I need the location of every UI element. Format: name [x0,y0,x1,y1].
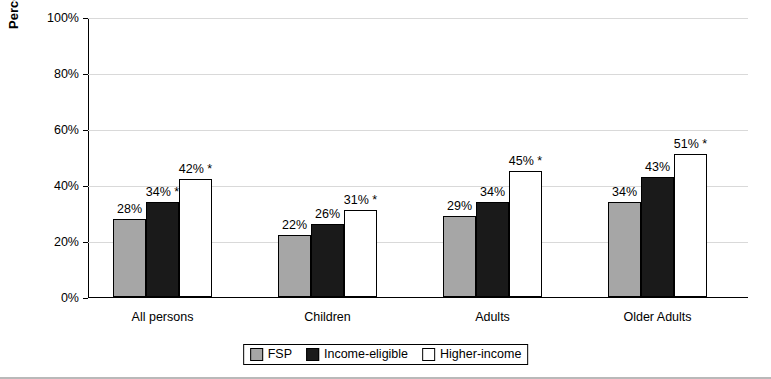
y-axis-tick-label: 60% [54,123,79,137]
bar-value-label: 34% * [146,185,179,199]
y-axis-tick-label: 40% [54,179,79,193]
bar-income-eligible [641,177,674,297]
x-axis-category-label: Older Adults [623,310,691,324]
bar-income-eligible [311,224,344,297]
bar-value-label: 31% * [344,193,377,207]
bar-income-eligible [476,202,509,297]
bar-higher-income [509,171,542,297]
x-axis-category-label: Adults [475,310,510,324]
bar-value-label: 42% * [179,162,212,176]
bar-fsp [278,235,311,297]
x-axis-category-label: Children [304,310,351,324]
bar-higher-income [344,210,377,297]
legend-swatch-higher-income [422,348,435,361]
x-axis-line [88,297,748,298]
y-axis-title: Percent of persons [6,0,21,60]
bar-value-label: 51% * [674,137,707,151]
bar-fsp [443,216,476,297]
y-axis-tick [83,130,88,131]
bar-group: 22%26%31% * [278,19,377,297]
bar-group: 28%34% *42% * [113,19,212,297]
bar-group: 34%43%51% * [608,19,707,297]
bar-fsp [113,219,146,297]
legend-swatch-income-eligible [306,348,319,361]
legend-label-fsp: FSP [268,347,292,361]
legend-label-income-eligible: Income-eligible [324,347,408,361]
plot-area: 0%20%40%60%80%100% 28%34% *42% *All pers… [88,18,748,298]
legend-item-fsp: FSP [250,347,292,361]
y-axis-line [88,18,89,298]
chart-legend: FSP Income-eligible Higher-income [243,344,529,365]
bar-chart: Percent of persons 0%20%40%60%80%100% 28… [0,0,771,379]
bar-value-label: 29% [447,199,472,213]
legend-item-higher-income: Higher-income [422,347,521,361]
bar-value-label: 28% [117,202,142,216]
bar-value-label: 34% [612,185,637,199]
y-axis-tick-label: 0% [61,291,79,305]
bar-value-label: 26% [315,207,340,221]
bar-fsp [608,202,641,297]
y-axis-tick [83,18,88,19]
y-axis-tick [83,242,88,243]
bar-income-eligible [146,202,179,297]
legend-swatch-fsp [250,348,263,361]
y-axis-tick-label: 80% [54,67,79,81]
y-axis-tick [83,298,88,299]
x-axis-category-label: All persons [132,310,194,324]
y-axis-tick-label: 100% [47,11,79,25]
legend-label-higher-income: Higher-income [440,347,521,361]
bar-higher-income [179,179,212,297]
bar-group: 29%34%45% * [443,19,542,297]
y-axis-tick-label: 20% [54,235,79,249]
y-axis-tick [83,74,88,75]
bar-value-label: 45% * [509,154,542,168]
legend-item-income-eligible: Income-eligible [306,347,408,361]
y-axis-tick [83,186,88,187]
bar-value-label: 43% [645,160,670,174]
bar-value-label: 22% [282,218,307,232]
bar-higher-income [674,154,707,297]
bar-value-label: 34% [480,185,505,199]
